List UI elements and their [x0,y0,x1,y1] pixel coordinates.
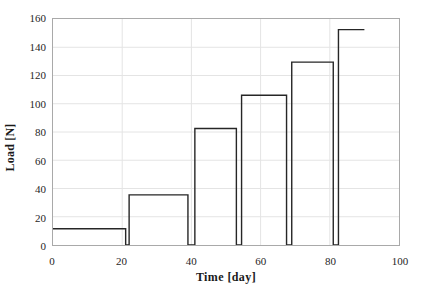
y-tick-label: 140 [2,41,46,52]
y-tick-label: 100 [2,98,46,109]
y-tick-label: 60 [2,155,46,166]
x-tick-label: 80 [310,256,350,267]
x-tick-label: 0 [32,256,72,267]
y-tick-label: 120 [2,70,46,81]
x-axis-tick-labels: 020406080100 [52,251,400,267]
y-tick-label: 80 [2,127,46,138]
plot-area [52,18,400,246]
y-tick-label: 160 [2,13,46,24]
x-tick-label: 20 [102,256,142,267]
load-vs-time-step-chart: Load [N] 020406080100120140160 020406080… [0,0,427,294]
x-tick-label: 60 [241,256,281,267]
y-tick-label: 20 [2,212,46,223]
y-tick-label: 40 [2,184,46,195]
y-tick-label: 0 [2,241,46,252]
x-tick-label: 40 [171,256,211,267]
load-step-series [53,19,399,245]
y-axis-tick-labels: 020406080100120140160 [0,18,46,246]
x-tick-label: 100 [380,256,420,267]
x-axis-title: Time [day] [52,270,400,285]
